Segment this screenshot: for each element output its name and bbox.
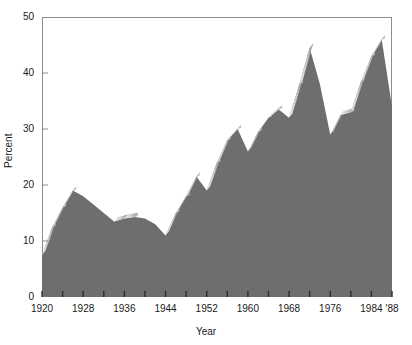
x-axis-ticks — [42, 291, 392, 297]
y-tick-label: 0 — [12, 292, 34, 302]
x-axis-title: Year — [0, 326, 412, 337]
x-tick-label: '88 — [368, 303, 412, 315]
y-tick-label: 40 — [12, 68, 34, 78]
y-tick-label: 10 — [12, 236, 34, 246]
axis-ticks — [0, 0, 412, 345]
y-tick-label: 50 — [12, 12, 34, 22]
area-chart: 01020304050 1920192819361944195219601968… — [0, 0, 412, 345]
y-axis-ticks — [42, 73, 48, 241]
x-axis-tick-labels: 192019281936194419521960196819761984'88 — [0, 303, 412, 319]
y-axis-title: Percent — [2, 116, 16, 186]
